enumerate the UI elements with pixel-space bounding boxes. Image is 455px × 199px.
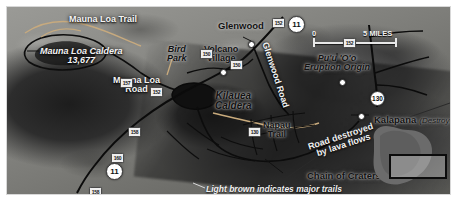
napau-trail-line [213, 113, 319, 128]
bird-park-spur [167, 55, 173, 75]
route-marker-7[interactable]: 158 [128, 127, 141, 137]
highway-shield-130[interactable]: 130 [370, 91, 385, 106]
highway-130-branch-a [375, 57, 429, 73]
highway-130-branch-b [377, 85, 427, 95]
map-figure: Mauna Loa Trail Mauna Loa Caldera 13,677… [0, 0, 455, 199]
legend-leader-line [193, 183, 205, 188]
route-marker-3[interactable]: 150 [200, 49, 213, 59]
inset-locator-map[interactable] [360, 118, 448, 192]
inset-highlight-box [389, 154, 447, 179]
town-dot-puu-oo[interactable] [339, 79, 346, 86]
scale-tick-right [395, 38, 397, 47]
scale-tick-left [313, 38, 315, 47]
mauna-loa-road-line [103, 49, 179, 91]
town-dot-volcano-village[interactable] [220, 69, 227, 76]
map-canvas[interactable]: Mauna Loa Trail Mauna Loa Caldera 13,677… [6, 6, 451, 195]
scale-label-min: 0 [312, 29, 316, 38]
mauna-loa-trail-line [25, 22, 141, 46]
scale-label-max: 5 MILES [363, 29, 392, 38]
town-dot-glenwood[interactable] [248, 41, 255, 48]
route-marker-9[interactable]: 158 [89, 187, 102, 195]
route-marker-10[interactable]: 152 [343, 38, 356, 48]
glenwood-road-line [251, 41, 289, 115]
secondary-roads-group [167, 111, 315, 161]
route-marker-2[interactable]: 130 [248, 127, 261, 137]
highway-shield-11-south[interactable]: 11 [106, 163, 123, 180]
route-marker-5[interactable]: 157 [120, 78, 133, 88]
highway-shield-11-north[interactable]: 11 [288, 16, 305, 33]
route-marker-8[interactable]: 160 [111, 153, 124, 163]
mauna-loa-caldera-inner [35, 41, 96, 65]
route-marker-6[interactable]: 152 [150, 87, 163, 97]
route-marker-4[interactable]: 150 [230, 60, 243, 70]
route-marker-1[interactable]: 152 [272, 18, 285, 28]
